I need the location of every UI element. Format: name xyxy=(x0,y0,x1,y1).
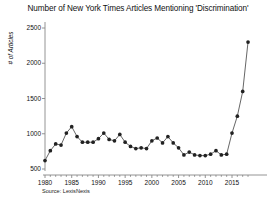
data-point xyxy=(107,138,111,142)
data-point xyxy=(177,146,181,150)
source-note: Source: LexisNexis xyxy=(42,188,90,194)
data-point xyxy=(134,147,138,151)
data-point xyxy=(203,154,207,158)
x-tick-label: 2005 xyxy=(165,179,193,186)
data-point xyxy=(70,125,74,129)
data-point xyxy=(230,131,234,135)
data-point xyxy=(155,136,159,140)
data-point xyxy=(139,146,143,150)
data-point xyxy=(43,159,47,163)
x-tick-label: 2000 xyxy=(138,179,166,186)
data-point xyxy=(235,114,239,118)
data-point xyxy=(225,152,229,156)
data-series-discrimination xyxy=(43,40,250,162)
data-point xyxy=(150,139,154,143)
data-point xyxy=(59,143,63,147)
y-tick-label: 500 xyxy=(14,165,41,172)
data-point xyxy=(81,140,85,144)
data-point xyxy=(219,153,223,157)
data-point xyxy=(118,133,122,137)
x-tick-label: 2015 xyxy=(218,179,246,186)
y-tick-label: 1000 xyxy=(14,130,41,137)
data-point xyxy=(113,139,117,143)
axes-group xyxy=(42,22,267,178)
data-point xyxy=(246,40,250,44)
data-point xyxy=(97,137,101,141)
data-point xyxy=(193,153,197,157)
x-tick-label: 2010 xyxy=(191,179,219,186)
data-point xyxy=(187,150,191,154)
data-point xyxy=(182,153,186,157)
data-point xyxy=(209,152,213,156)
data-point xyxy=(171,141,175,145)
data-point xyxy=(129,145,133,149)
data-point xyxy=(166,135,170,139)
chart-container: Number of New York Times Articles Mentio… xyxy=(0,0,276,205)
x-tick-label: 1985 xyxy=(58,179,86,186)
x-tick-label: 1995 xyxy=(111,179,139,186)
data-point xyxy=(75,135,79,139)
data-point xyxy=(214,149,218,153)
y-tick-label: 1500 xyxy=(14,95,41,102)
data-point xyxy=(198,154,202,158)
series-line xyxy=(45,42,248,160)
data-point xyxy=(86,140,90,144)
data-point xyxy=(241,90,245,94)
data-point xyxy=(102,131,106,135)
data-point xyxy=(54,142,58,146)
data-point xyxy=(123,140,127,144)
data-point xyxy=(145,147,149,151)
y-tick-label: 2000 xyxy=(14,59,41,66)
data-point xyxy=(48,149,52,153)
x-tick-label: 1990 xyxy=(84,179,112,186)
data-point xyxy=(161,141,165,145)
data-point xyxy=(91,140,95,144)
x-tick-label: 1980 xyxy=(31,179,59,186)
y-tick-label: 2500 xyxy=(14,24,41,31)
plot-area xyxy=(0,0,276,205)
data-point xyxy=(65,131,69,135)
